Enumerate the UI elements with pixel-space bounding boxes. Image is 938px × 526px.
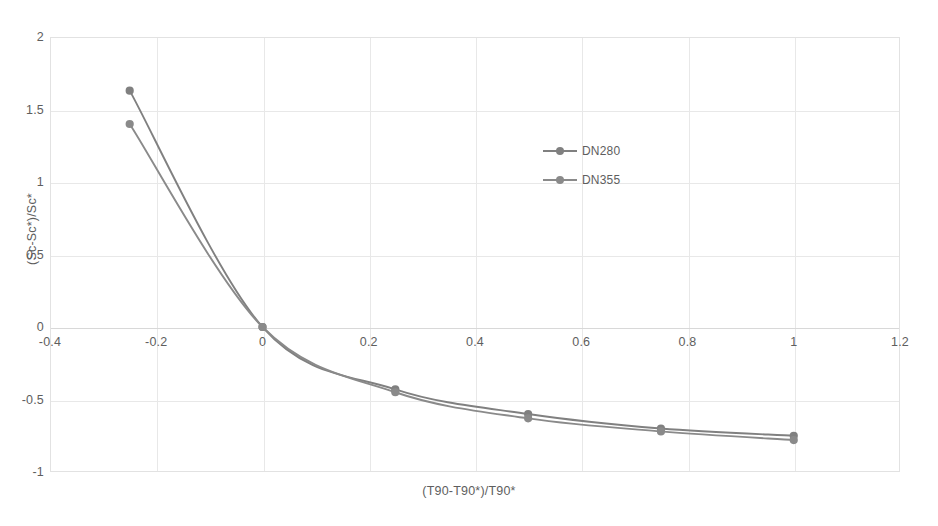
y-axis-tick-label: -1: [0, 465, 44, 479]
series-dn355: [126, 120, 798, 444]
data-point-marker: [524, 414, 532, 422]
y-axis-tick-label: -0.5: [0, 393, 44, 407]
y-axis-tick-label: 2: [0, 30, 44, 44]
legend-swatch: [543, 174, 577, 186]
x-axis-tick-label: -0.4: [39, 335, 61, 349]
legend-label: DN355: [582, 173, 620, 187]
series-line: [130, 91, 794, 436]
legend-label: DN280: [582, 144, 620, 158]
series-line: [130, 124, 794, 440]
y-axis-tick-label: 0: [0, 320, 44, 334]
series-layer: [50, 37, 900, 472]
x-axis-tick-label: 0.2: [360, 335, 378, 349]
x-axis-tick-label: 1.2: [891, 335, 909, 349]
legend-entry-dn355: DN355: [543, 173, 620, 186]
data-point-marker: [391, 388, 399, 396]
legend-swatch: [543, 145, 577, 157]
data-point-marker: [258, 323, 266, 331]
x-axis-title: (T90-T90*)/T90*: [0, 484, 938, 498]
y-axis-title: (Sc-Sc*)/Sc*: [25, 159, 39, 299]
x-axis-tick-label: 1: [790, 335, 797, 349]
x-axis-tick-label: 0.8: [679, 335, 697, 349]
data-point-marker: [790, 436, 798, 444]
data-point-marker: [657, 427, 665, 435]
data-point-marker: [126, 87, 134, 95]
x-axis-tick-label: -0.2: [145, 335, 167, 349]
data-point-marker: [126, 120, 134, 128]
x-axis-tick-label: 0.4: [466, 335, 484, 349]
legend-marker-icon: [556, 147, 564, 155]
chart-container: -0.4-0.200.20.40.60.811.221.510.50-0.5-1…: [0, 0, 938, 526]
series-dn280: [126, 87, 798, 440]
chart-legend: DN280DN355: [543, 144, 620, 186]
legend-entry-dn280: DN280: [543, 144, 620, 157]
x-axis-tick-label: 0.6: [572, 335, 590, 349]
x-axis-tick-label: 0: [259, 335, 266, 349]
legend-marker-icon: [556, 176, 564, 184]
y-axis-tick-label: 1.5: [0, 103, 44, 117]
